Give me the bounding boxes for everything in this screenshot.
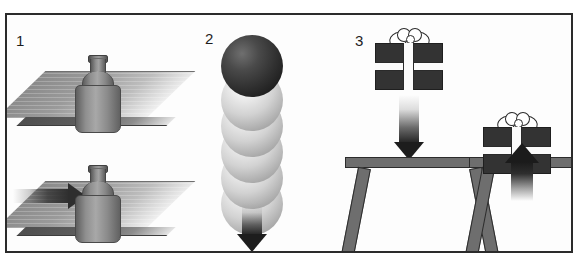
scene-bottle-being-pushed (7, 153, 197, 253)
bottle (75, 165, 121, 243)
gift-ribbon-vertical (403, 43, 414, 90)
panel-gift-box-on-table: 3 (337, 15, 573, 251)
panel-number-2: 2 (205, 30, 213, 47)
arrow-head (237, 234, 267, 252)
cropped-caption-strip (0, 0, 584, 13)
arrow-shaft (511, 162, 533, 201)
push-arrow-icon (13, 183, 69, 209)
arrow-shaft (399, 95, 419, 143)
bottle-body (75, 85, 121, 133)
arrow-head (505, 143, 539, 163)
arrow-shaft (242, 203, 262, 235)
fall-arrow-icon (237, 203, 267, 235)
figure-frame: 1 (5, 13, 573, 253)
panel-falling-ball: 2 (197, 15, 337, 251)
table-leg (341, 167, 371, 253)
panel-number-3: 3 (355, 32, 363, 49)
bottle (75, 55, 121, 133)
fall-arrow-icon (394, 95, 424, 143)
falling-ball (221, 35, 283, 97)
panel-number-1: 1 (16, 32, 24, 49)
scene-bottle-at-rest (7, 53, 197, 138)
panel-bottle-on-table: 1 (7, 15, 197, 251)
impact-arrow-icon (505, 143, 539, 201)
gift-box (375, 43, 443, 90)
bottle-body (75, 195, 121, 243)
table-leg (465, 167, 495, 253)
arrow-shaft (13, 189, 69, 203)
